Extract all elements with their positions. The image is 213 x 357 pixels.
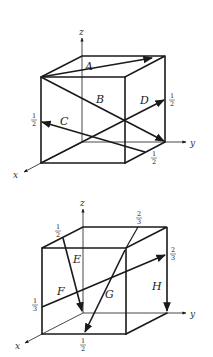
crystal-direction-diagram: z y x A B C D 1 2 1 2 1 <box>0 0 213 357</box>
z-axis-label: z <box>78 27 84 37</box>
fraction-g-tail: 2 3 <box>136 210 142 226</box>
vector-label-d: D <box>139 94 149 107</box>
vector-a <box>41 58 152 77</box>
vector-label-f: F <box>56 285 65 298</box>
cube-top-panel: z y x A B C D 1 2 1 2 1 <box>13 27 196 180</box>
svg-text:2: 2 <box>170 100 174 108</box>
fraction-c-tail: 1 2 <box>151 150 157 166</box>
x-axis <box>25 334 42 343</box>
svg-text:2: 2 <box>171 246 175 254</box>
vector-f <box>42 255 165 307</box>
vector-label-e: E <box>72 253 81 266</box>
svg-text:1: 1 <box>56 223 60 231</box>
svg-text:1: 1 <box>170 92 174 100</box>
y-axis-label: y <box>189 309 196 319</box>
svg-text:1: 1 <box>152 150 156 158</box>
x-axis-hidden <box>42 313 83 334</box>
y-axis-label: y <box>189 138 196 148</box>
x-axis-label: x <box>15 341 20 351</box>
cube-bottom-panel: z y x E F G H 1 2 2 3 2 <box>15 198 196 353</box>
svg-text:2: 2 <box>152 158 156 166</box>
svg-text:1: 1 <box>33 297 37 305</box>
fraction-e-tail: 1 2 <box>55 223 61 239</box>
x-axis-label: x <box>13 170 18 180</box>
x-axis <box>24 163 41 172</box>
vector-label-g: G <box>105 288 114 301</box>
fraction-c-tip: 1 2 <box>31 112 37 128</box>
vector-label-h: H <box>151 280 162 293</box>
svg-text:3: 3 <box>33 305 37 313</box>
svg-text:1: 1 <box>32 112 36 120</box>
svg-text:2: 2 <box>56 231 60 239</box>
vector-label-a: A <box>84 60 93 73</box>
svg-text:2: 2 <box>32 120 36 128</box>
svg-text:3: 3 <box>137 218 141 226</box>
vector-e <box>63 238 82 311</box>
fraction-g-tip: 1 2 <box>80 337 86 353</box>
cube-edge-bottom-right <box>125 142 165 163</box>
diagram-canvas: z y x A B C D 1 2 1 2 1 <box>0 0 213 357</box>
svg-text:1: 1 <box>81 337 85 345</box>
fraction-d-tip: 1 2 <box>169 92 175 108</box>
fraction-f-tail: 1 3 <box>32 297 38 313</box>
cube-top-face <box>42 227 167 248</box>
vector-label-b: B <box>95 93 104 106</box>
cube-edge-bottom-right <box>126 313 167 334</box>
svg-text:2: 2 <box>81 345 85 353</box>
z-axis-label: z <box>79 198 85 208</box>
svg-text:2: 2 <box>137 210 141 218</box>
fraction-f-tip: 2 3 <box>170 246 176 262</box>
vector-label-c: C <box>60 115 69 128</box>
svg-text:3: 3 <box>171 254 175 262</box>
